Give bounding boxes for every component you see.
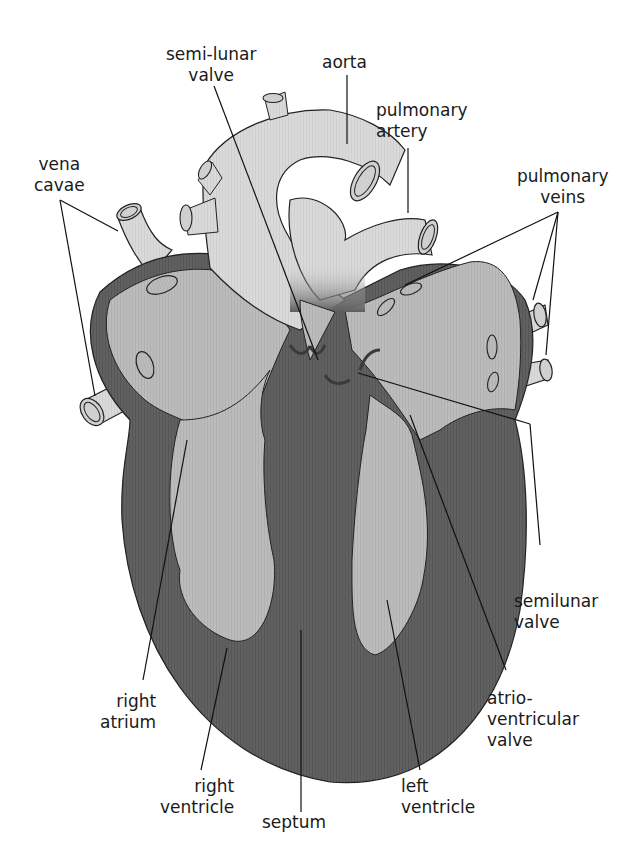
label-line: left: [401, 776, 475, 797]
label-right-ventricle: right ventricle: [160, 776, 234, 818]
label-left-ventricle: left ventricle: [401, 776, 475, 818]
label-line: vena: [34, 154, 85, 175]
label-line: cavae: [34, 175, 85, 196]
label-line: ventricle: [401, 797, 475, 818]
label-line: semi-lunar: [166, 44, 256, 65]
label-line: ventricle: [160, 797, 234, 818]
label-right-atrium: right atrium: [100, 691, 156, 733]
label-line: artery: [376, 121, 468, 142]
label-semilunar-valve: semilunar valve: [514, 591, 598, 633]
label-line: ventricular: [487, 709, 579, 730]
label-line: semilunar: [514, 591, 598, 612]
label-vena-cavae: vena cavae: [34, 154, 85, 196]
label-line: septum: [262, 812, 326, 833]
label-line: atrio-: [487, 688, 579, 709]
label-line: valve: [166, 65, 256, 86]
label-line: aorta: [322, 52, 367, 73]
label-line: veins: [517, 187, 609, 208]
label-line: pulmonary: [376, 100, 468, 121]
label-aorta: aorta: [322, 52, 367, 73]
label-line: valve: [514, 612, 598, 633]
label-pulmonary-artery: pulmonary artery: [376, 100, 468, 142]
label-septum: septum: [262, 812, 326, 833]
label-line: valve: [487, 730, 579, 751]
label-line: right: [100, 691, 156, 712]
label-pulmonary-veins: pulmonary veins: [517, 166, 609, 208]
label-line: pulmonary: [517, 166, 609, 187]
label-line: atrium: [100, 712, 156, 733]
label-semi-lunar-valve: semi-lunar valve: [166, 44, 256, 86]
label-atrioventricular-valve: atrio- ventricular valve: [487, 688, 579, 751]
label-line: right: [160, 776, 234, 797]
